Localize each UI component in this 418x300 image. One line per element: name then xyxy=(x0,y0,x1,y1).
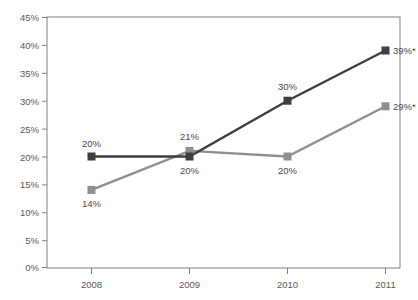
dark-series-marker xyxy=(88,153,96,161)
y-tick-label: 20% xyxy=(20,152,40,163)
dark-series-marker xyxy=(382,47,390,55)
y-axis-labels: 45% 40% 35% 30% 25% 20% 15% 10% 5% 0% xyxy=(20,12,40,273)
data-label-gray-2011: 29%* xyxy=(393,101,416,112)
x-axis-ticks xyxy=(92,268,386,274)
chart-container: 45% 40% 35% 30% 25% 20% 15% 10% 5% 0% 20… xyxy=(0,0,418,300)
data-label-gray-2008: 14% xyxy=(82,198,102,209)
y-axis-ticks xyxy=(42,18,47,268)
y-tick-label: 0% xyxy=(25,262,39,273)
x-tick-label-2010: 2010 xyxy=(277,279,298,290)
data-label-gray-2009: 21% xyxy=(180,131,200,142)
data-label-dark-2011: 39%* xyxy=(393,45,416,56)
y-tick-label: 30% xyxy=(20,96,40,107)
data-label-dark-2008: 20% xyxy=(82,138,102,149)
y-tick-label: 35% xyxy=(20,68,40,79)
x-tick-label-2008: 2008 xyxy=(81,279,102,290)
gray-series-marker xyxy=(284,153,292,161)
x-axis-labels: 2008 2009 2010 2011 xyxy=(81,279,396,290)
y-tick-label: 10% xyxy=(20,207,40,218)
y-tick-label: 25% xyxy=(20,124,40,135)
gray-series-marker xyxy=(88,186,96,194)
line-chart: 45% 40% 35% 30% 25% 20% 15% 10% 5% 0% 20… xyxy=(0,0,418,300)
data-label-dark-2009: 20% xyxy=(180,165,200,176)
x-tick-label-2009: 2009 xyxy=(179,279,200,290)
data-label-gray-2010: 20% xyxy=(278,165,298,176)
data-label-dark-2010: 30% xyxy=(278,81,298,92)
y-tick-label: 15% xyxy=(20,179,40,190)
dark-series-marker xyxy=(284,97,292,105)
y-tick-label: 5% xyxy=(25,235,39,246)
gray-series-marker xyxy=(382,102,390,110)
y-tick-label: 45% xyxy=(20,12,40,23)
x-tick-label-2011: 2011 xyxy=(375,279,395,290)
dark-series-marker xyxy=(186,153,194,161)
y-tick-label: 40% xyxy=(20,40,40,51)
